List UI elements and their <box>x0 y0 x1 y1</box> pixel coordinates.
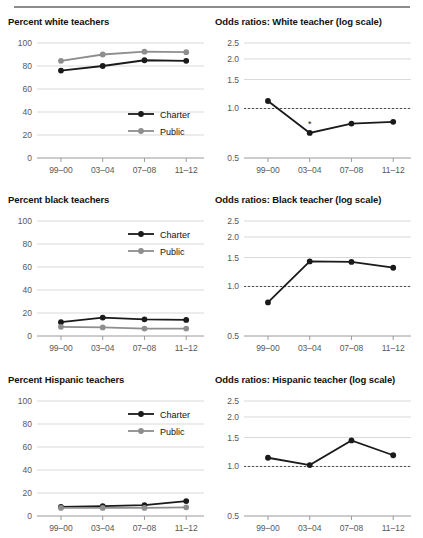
y-axis-tick-label: 2.0 <box>227 412 239 422</box>
series-line-charter <box>61 501 186 507</box>
x-axis-tick-label: 07–08 <box>340 165 364 175</box>
y-axis-tick-label: 0 <box>27 153 32 163</box>
data-point-odds ratio <box>349 438 355 444</box>
data-point-charter <box>100 315 106 321</box>
data-point-charter <box>58 68 64 74</box>
legend-label-charter: Charter <box>160 110 190 120</box>
x-axis-tick-label: 11–12 <box>382 343 405 353</box>
plot-percent-black-teachers: 02040608010099–0003–0407–0811–12CharterP… <box>8 204 208 356</box>
x-axis-tick-label: 03–04 <box>298 165 322 175</box>
x-axis-tick-label: 11–12 <box>175 343 198 353</box>
data-point-public <box>142 326 148 332</box>
y-axis-tick-label: 0.5 <box>227 153 239 163</box>
legend-label-charter: Charter <box>160 230 190 240</box>
x-axis-tick-label: 11–12 <box>175 523 198 533</box>
series-line-public <box>61 52 186 61</box>
plot-percent-hispanic-teachers: 02040608010099–0003–0407–0811–12CharterP… <box>8 384 208 536</box>
data-point-odds ratio <box>307 259 313 265</box>
x-axis-tick-label: 03–04 <box>298 523 322 533</box>
y-axis-tick-label: 40 <box>23 107 33 117</box>
series-line-public <box>61 327 186 329</box>
data-point-public <box>58 324 64 330</box>
y-axis-tick-label: 2.5 <box>227 216 239 226</box>
y-axis-tick-label: 0 <box>27 331 32 341</box>
y-axis-tick-label: 0.5 <box>227 331 239 341</box>
data-point-public <box>100 52 106 58</box>
y-axis-tick-label: 0.5 <box>227 511 239 521</box>
x-axis-tick-label: 11–12 <box>382 165 405 175</box>
data-point-odds ratio <box>349 121 355 127</box>
y-axis-tick-label: 1.0 <box>227 103 239 113</box>
y-axis-tick-label: 1.0 <box>227 461 239 471</box>
data-point-public <box>58 505 64 511</box>
data-point-public <box>183 49 189 55</box>
y-axis-tick-label: 20 <box>23 308 33 318</box>
data-point-odds ratio <box>265 455 271 461</box>
data-point-odds ratio <box>307 462 313 468</box>
data-point-odds ratio <box>265 300 271 306</box>
series-line-odds ratio <box>268 440 393 465</box>
significance-asterisk: * <box>308 119 312 129</box>
x-axis-tick-label: 99–00 <box>49 523 73 533</box>
x-axis-tick-label: 03–04 <box>91 523 115 533</box>
data-point-odds ratio <box>390 265 396 271</box>
data-point-charter <box>142 57 148 63</box>
x-axis-tick-label: 99–00 <box>49 165 73 175</box>
data-point-public <box>100 324 106 330</box>
y-axis-tick-label: 20 <box>23 130 33 140</box>
data-point-charter <box>183 58 189 64</box>
legend-label-public: Public <box>160 127 185 137</box>
data-point-odds ratio <box>307 130 313 136</box>
y-axis-tick-label: 80 <box>23 61 33 71</box>
x-axis-tick-label: 99–00 <box>49 343 73 353</box>
y-axis-tick-label: 100 <box>18 216 32 226</box>
x-axis-tick-label: 99–00 <box>256 343 280 353</box>
x-axis-tick-label: 99–00 <box>256 523 280 533</box>
x-axis-tick-label: 07–08 <box>133 165 157 175</box>
y-axis-tick-label: 100 <box>18 38 32 48</box>
data-point-charter <box>183 317 189 323</box>
data-point-public <box>58 58 64 64</box>
plot-odds-ratios-white-teacher: 0.51.01.52.02.599–0003–0407–0811–12* <box>215 26 415 178</box>
x-axis-tick-label: 07–08 <box>340 343 364 353</box>
y-axis-tick-label: 60 <box>23 442 33 452</box>
y-axis-tick-label: 100 <box>18 396 32 406</box>
x-axis-tick-label: 03–04 <box>298 343 322 353</box>
data-point-charter <box>100 63 106 69</box>
plot-odds-ratios-black-teacher: 0.51.01.52.02.599–0003–0407–0811–12 <box>215 204 415 356</box>
data-point-odds ratio <box>390 119 396 125</box>
x-axis-tick-label: 11–12 <box>382 523 405 533</box>
y-axis-tick-label: 20 <box>23 488 33 498</box>
data-point-odds ratio <box>265 98 271 104</box>
series-line-charter <box>61 318 186 323</box>
y-axis-tick-label: 2.5 <box>227 396 239 406</box>
figure-root: Percent white teachers02040608010099–000… <box>0 0 423 538</box>
x-axis-tick-label: 99–00 <box>256 165 280 175</box>
x-axis-tick-label: 07–08 <box>133 523 157 533</box>
data-point-public <box>183 326 189 332</box>
x-axis-tick-label: 07–08 <box>133 343 157 353</box>
y-axis-tick-label: 1.5 <box>227 253 239 263</box>
y-axis-tick-label: 60 <box>23 84 33 94</box>
data-point-charter <box>183 498 189 504</box>
legend-swatch-dot <box>138 411 144 417</box>
legend-swatch-dot <box>138 428 144 434</box>
y-axis-tick-label: 80 <box>23 419 33 429</box>
x-axis-tick-label: 03–04 <box>91 343 115 353</box>
y-axis-tick-label: 1.5 <box>227 433 239 443</box>
y-axis-tick-label: 1.0 <box>227 281 239 291</box>
data-point-charter <box>142 316 148 322</box>
data-point-public <box>100 505 106 511</box>
y-axis-tick-label: 40 <box>23 465 33 475</box>
series-line-odds ratio <box>268 261 393 302</box>
y-axis-tick-label: 0 <box>27 511 32 521</box>
legend-swatch-dot <box>138 128 144 134</box>
data-point-public <box>142 49 148 55</box>
series-line-charter <box>61 60 186 70</box>
legend-label-charter: Charter <box>160 410 190 420</box>
y-axis-tick-label: 2.0 <box>227 232 239 242</box>
data-point-public <box>142 505 148 511</box>
x-axis-tick-label: 11–12 <box>175 165 198 175</box>
legend-swatch-dot <box>138 111 144 117</box>
legend-label-public: Public <box>160 427 185 437</box>
